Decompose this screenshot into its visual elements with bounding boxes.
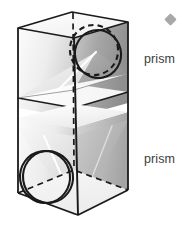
label-lower-prism: prism [144,152,175,166]
geometry-figure: prism prism [0,0,191,235]
prism-diagram-svg [0,0,191,235]
lower-prism-group [17,104,128,215]
label-upper-prism: prism [144,52,175,66]
